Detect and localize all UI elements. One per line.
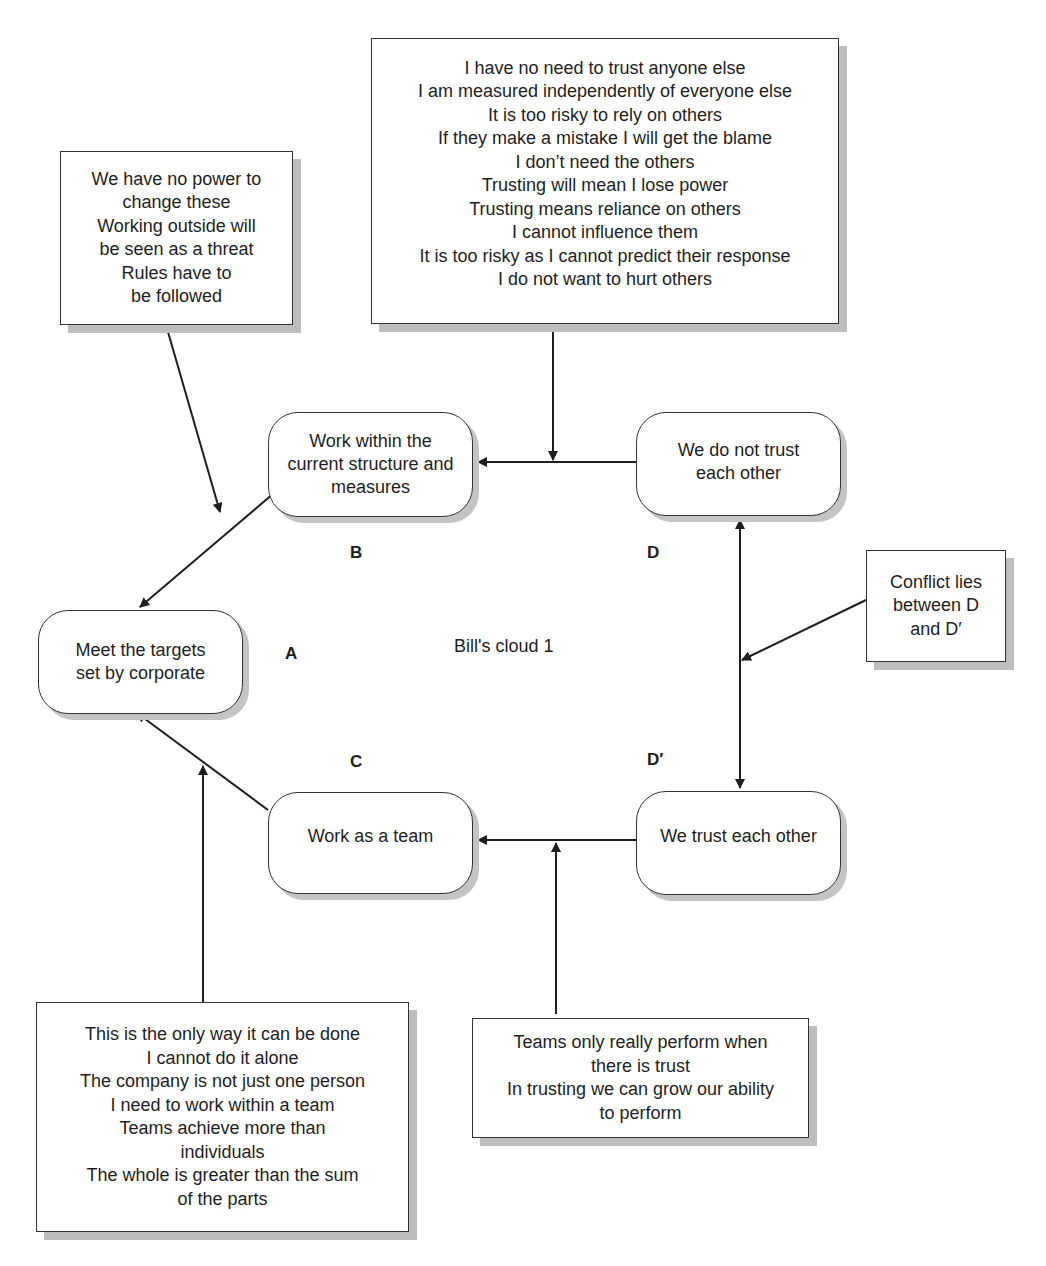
assumption-line: It is too risky to rely on others	[488, 104, 722, 128]
conflict-line: between D	[893, 594, 979, 618]
assumption-line: change these	[122, 191, 230, 215]
assumption-line: Trusting will mean I lose power	[482, 174, 728, 198]
node-b-text: current structure and	[287, 453, 453, 476]
node-c-text: Work as a team	[308, 825, 434, 848]
assumption-line: If they make a mistake I will get the bl…	[438, 127, 772, 151]
arrow-conflict	[742, 600, 866, 660]
assumption-line: Working outside will	[97, 215, 256, 239]
assumption-line: I am measured independently of everyone …	[418, 80, 792, 104]
assumption-line: there is trust	[591, 1055, 690, 1079]
assumption-line: The company is not just one person	[80, 1070, 365, 1094]
assumption-line: be seen as a threat	[99, 238, 253, 262]
label-a: A	[285, 644, 297, 664]
conflict-line: Conflict lies	[890, 571, 982, 595]
assumption-line: I cannot influence them	[512, 221, 698, 245]
arrow-b-to-a	[140, 488, 280, 607]
assumption-box-ac: This is the only way it can be done I ca…	[36, 1002, 409, 1232]
assumption-line: Teams achieve more than	[119, 1117, 325, 1141]
arrow-ab-assumption	[166, 325, 220, 512]
assumption-line: to perform	[599, 1102, 681, 1126]
assumption-line: I don’t need the others	[515, 151, 694, 175]
assumption-line: Trusting means reliance on others	[469, 198, 740, 222]
node-d-text: We do not trust	[678, 439, 800, 462]
node-d-prime-text: We trust each other	[660, 825, 817, 848]
assumption-line: Rules have to	[121, 262, 231, 286]
assumption-box-bd: I have no need to trust anyone else I am…	[371, 38, 839, 324]
diagram-title: Bill's cloud 1	[454, 636, 553, 657]
assumption-line: I cannot do it alone	[146, 1047, 298, 1071]
node-d: We do not trust each other	[636, 412, 841, 516]
label-b: B	[350, 543, 362, 563]
label-d-prime: D′	[647, 750, 663, 770]
label-c: C	[350, 752, 362, 772]
label-d: D	[647, 543, 659, 563]
assumption-line: I have no need to trust anyone else	[464, 57, 745, 81]
assumption-line: I need to work within a team	[110, 1094, 334, 1118]
node-c: Work as a team	[268, 792, 473, 894]
node-b: Work within the current structure and me…	[268, 412, 473, 517]
node-d-text: each other	[678, 462, 800, 485]
assumption-box-cd: Teams only really perform when there is …	[472, 1018, 809, 1138]
assumption-line: We have no power to	[92, 168, 262, 192]
node-b-text: Work within the	[287, 430, 453, 453]
node-a: Meet the targets set by corporate	[38, 610, 243, 714]
node-a-text: set by corporate	[75, 662, 205, 685]
node-d-prime: We trust each other	[636, 791, 841, 895]
conflict-box: Conflict lies between D and D′	[866, 550, 1006, 662]
assumption-line: of the parts	[177, 1188, 267, 1212]
assumption-line: In trusting we can grow our ability	[507, 1078, 774, 1102]
assumption-line: individuals	[180, 1141, 264, 1165]
assumption-box-ab: We have no power to change these Working…	[60, 151, 293, 325]
node-b-text: measures	[287, 476, 453, 499]
node-a-text: Meet the targets	[75, 639, 205, 662]
assumption-line: It is too risky as I cannot predict thei…	[419, 245, 790, 269]
assumption-line: I do not want to hurt others	[498, 268, 712, 292]
assumption-line: be followed	[131, 285, 222, 309]
conflict-line: and D′	[910, 618, 961, 642]
assumption-line: Teams only really perform when	[513, 1031, 767, 1055]
assumption-line: The whole is greater than the sum	[86, 1164, 358, 1188]
assumption-line: This is the only way it can be done	[85, 1023, 360, 1047]
